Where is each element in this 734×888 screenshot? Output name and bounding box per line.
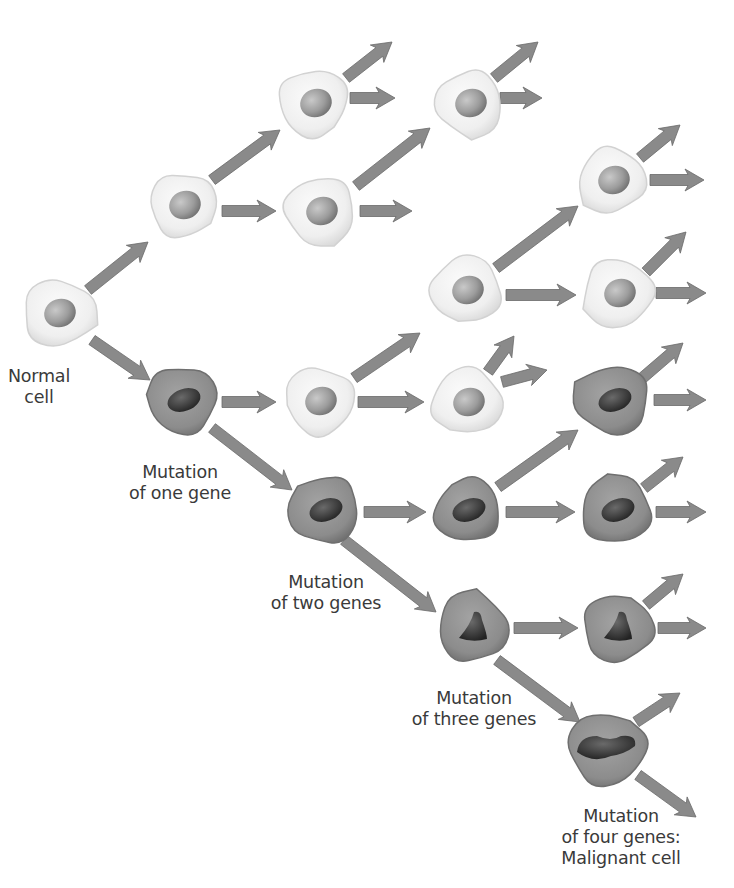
cell-gen3-normal-c	[429, 255, 501, 321]
arrow-icon	[654, 389, 706, 411]
cell-mut4-malignant	[568, 715, 648, 787]
arrow-icon	[658, 617, 706, 639]
arrow-icon	[643, 574, 684, 609]
arrow-icon	[350, 87, 395, 109]
arrow-icon	[343, 42, 392, 82]
arrow-icon	[351, 333, 420, 383]
arrow-icon	[364, 501, 426, 523]
label-mutation-four-genes-malignant: Mutation of four genes: Malignant cell	[556, 806, 686, 869]
arrow-icon	[353, 128, 430, 190]
arrow-icon	[501, 364, 547, 387]
arrow-icon	[637, 125, 681, 162]
cell-normal-root	[26, 280, 97, 346]
label-line: Malignant cell	[556, 848, 686, 869]
cell-gen2-normal-c	[287, 368, 355, 437]
cell-gen1-normal	[151, 176, 217, 238]
cell-gen3-normal-a	[434, 70, 500, 140]
label-line: Mutation	[406, 688, 542, 709]
arrow-icon	[656, 282, 706, 304]
arrow-icon	[514, 617, 578, 639]
cell-mut2	[288, 477, 357, 543]
label-mutation-three-genes: Mutation of three genes	[406, 688, 542, 730]
cell-gen2-normal-b	[283, 179, 352, 246]
cell-gen4-normal-a	[580, 146, 647, 213]
label-line: of one gene	[120, 483, 240, 504]
arrow-icon	[500, 87, 542, 109]
label-line: of four genes:	[556, 827, 686, 848]
label-line: of two genes	[262, 593, 390, 614]
cell-mut1	[147, 370, 217, 435]
label-line: Mutation	[120, 462, 240, 483]
cell-gen3-normal-d	[431, 366, 504, 431]
arrow-icon	[656, 501, 706, 523]
arrow-icon	[642, 232, 686, 276]
cell-mut3-child	[585, 596, 655, 662]
label-mutation-one-gene: Mutation of one gene	[120, 462, 240, 504]
arrow-icon	[360, 200, 412, 222]
label-line: cell	[2, 387, 76, 408]
arrow-icon	[484, 336, 515, 375]
label-line: of three genes	[406, 709, 542, 730]
arrow-icon	[358, 391, 424, 413]
arrow-icon	[493, 206, 578, 272]
arrow-icon	[491, 42, 539, 82]
arrow-icon	[209, 130, 280, 184]
arrow-icon	[222, 200, 276, 222]
arrow-icon	[641, 457, 683, 492]
label-line: Mutation	[262, 572, 390, 593]
label-normal-cell: Normal cell	[2, 366, 76, 408]
arrow-icon	[633, 693, 680, 727]
arrow-icon	[506, 501, 575, 523]
cell-mut3	[440, 589, 509, 662]
cells-layer	[26, 70, 655, 787]
arrow-icon	[495, 430, 578, 492]
arrow-icon	[650, 169, 704, 191]
cell-mut2-child-a	[433, 477, 498, 540]
arrow-icon	[222, 391, 276, 413]
label-line: Mutation	[556, 806, 686, 827]
label-mutation-two-genes: Mutation of two genes	[262, 572, 390, 614]
cell-mut1-child	[573, 367, 647, 435]
label-line: Normal	[2, 366, 76, 387]
arrow-icon	[89, 336, 150, 381]
arrow-icon	[506, 284, 576, 306]
cell-gen2-normal-a	[279, 71, 347, 139]
arrow-icon	[85, 242, 148, 294]
cell-lineage-diagram	[0, 0, 734, 888]
